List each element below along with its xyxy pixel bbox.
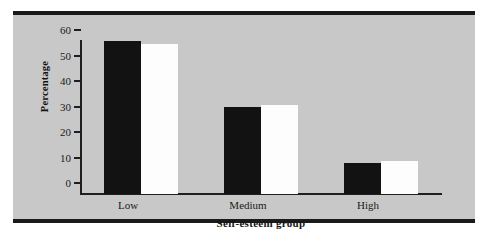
y-axis-tick-label: 60 [31, 25, 71, 36]
bar-medium-series-2 [261, 105, 298, 194]
bar-low-series-1 [104, 41, 141, 194]
bar-low-series-2 [141, 44, 178, 194]
bar-high-series-1 [344, 163, 381, 194]
y-axis-tick-label: 20 [31, 127, 71, 138]
y-axis-tick-label: 50 [31, 51, 71, 62]
y-axis-tick [74, 182, 81, 184]
plot-area [81, 41, 441, 194]
x-axis-category-label: Medium [229, 199, 266, 211]
y-axis-tick [74, 55, 81, 57]
y-axis-tick [74, 131, 81, 133]
x-axis-category-label: Low [118, 199, 138, 211]
y-axis-tick [74, 29, 81, 31]
y-axis-tick [74, 80, 81, 82]
bar-medium-series-1 [224, 107, 261, 194]
figure-panel: Percentage Self-esteem group 01020304050… [13, 11, 475, 223]
y-axis-tick-label: 10 [31, 153, 71, 164]
x-axis-category-label: High [357, 199, 379, 211]
y-axis-tick [74, 157, 81, 159]
y-axis-tick-label: 0 [31, 178, 71, 189]
x-axis-title: Self-esteem group [81, 217, 441, 229]
y-axis-tick-label: 40 [31, 76, 71, 87]
y-axis-tick-label: 30 [31, 102, 71, 113]
y-axis-tick [74, 106, 81, 108]
bar-high-series-2 [381, 161, 418, 194]
